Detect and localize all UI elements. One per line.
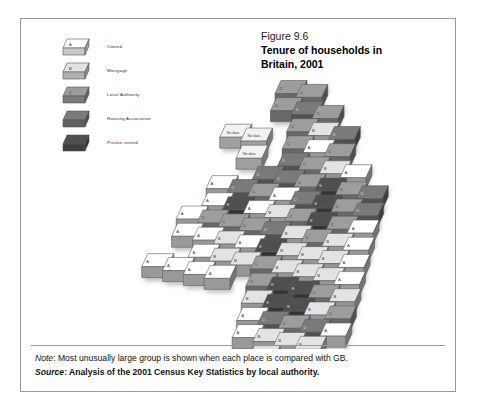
tile-label: A (206, 198, 209, 203)
legend-item-label: Housing Association (107, 116, 151, 121)
tile-label: E (310, 218, 313, 223)
tile-label: C (306, 235, 309, 240)
tile-label: No data (227, 131, 240, 135)
legend-item-local-authority: CLocal Authority (59, 85, 219, 109)
tile-label: C (340, 187, 343, 192)
tile-label: B (312, 128, 315, 133)
tile-label: C (291, 124, 294, 129)
tile-label: A (324, 328, 327, 333)
source-body: : Analysis of the 2001 Census Key Statis… (64, 367, 319, 377)
tile-label: A (211, 181, 214, 186)
tile-label: C (243, 223, 246, 228)
tile-label: E (227, 202, 230, 207)
tile-label: C (222, 219, 225, 224)
tile-label: B (317, 273, 320, 278)
tile-label: E (315, 201, 318, 206)
tile-label: A (307, 145, 310, 150)
legend-item-private-rented: Private rented (59, 133, 219, 157)
tile-front-face (204, 278, 230, 289)
tile-label: C (298, 180, 301, 185)
tile-label: E (259, 244, 262, 249)
legend-item-label: Private rented (107, 140, 138, 145)
notes-block: Note: Most unusually large group is show… (21, 345, 455, 391)
tile-label: E (319, 183, 322, 188)
tile-label: A (176, 229, 179, 234)
tile-label: E (287, 304, 290, 309)
tile-label: E (292, 286, 295, 291)
tile-label: A (347, 243, 350, 248)
tile-label: B (234, 258, 237, 263)
tile-label: B (268, 210, 271, 215)
tile-label: A (146, 259, 149, 264)
tile-label: C (300, 90, 303, 95)
tile-label: A (181, 211, 184, 216)
legend-item-label: Mortgage (107, 68, 128, 73)
tile-label: B (324, 166, 327, 171)
cartogram-tile[interactable]: A (204, 265, 236, 289)
tile-label: A (237, 330, 240, 335)
tile-label: C (317, 111, 320, 116)
tile-label: D (278, 176, 281, 181)
tile-label: C (252, 189, 255, 194)
legend-item-label: Local Authority (107, 92, 140, 97)
note-line: Note: Most unusually large group is show… (35, 353, 348, 363)
tile-label: C (283, 321, 286, 326)
figure-panel: CCCDCCBDNo dataNo dataCACNo dataDCBADDCE… (20, 18, 456, 392)
cartogram-tile[interactable]: No data (236, 145, 268, 169)
tile-label: A (209, 271, 212, 276)
tile-label: B (246, 296, 249, 301)
source-label: Source (35, 367, 64, 377)
tile-label: C (255, 261, 258, 266)
notes-divider (31, 345, 445, 346)
tile-label: E (271, 282, 274, 287)
legend-swatch-icon: A (59, 37, 93, 59)
tile-label: C (287, 141, 290, 146)
figure-number: Figure 9.6 (261, 29, 441, 43)
tile-label: D (231, 185, 234, 190)
source-line: Source: Analysis of the 2001 Census Key … (35, 367, 319, 377)
figure-title-line-2: Britain, 2001 (261, 58, 441, 72)
tile-label: B (333, 294, 336, 299)
tile-label: A (241, 313, 244, 318)
tile-label: B (280, 248, 283, 253)
tile-label: B (213, 254, 216, 259)
tile-label: C (335, 204, 338, 209)
tile-label: A (248, 206, 251, 211)
tile-label: C (250, 279, 253, 284)
svg-text:A: A (69, 42, 72, 47)
tile-label: D (262, 317, 265, 322)
note-label: Note (35, 353, 53, 363)
tile-label: C (329, 311, 332, 316)
tile-label: No data (248, 134, 261, 138)
legend-item-owned: AOwned (59, 37, 219, 61)
tile-label: B (322, 256, 325, 261)
tile-label: B (278, 338, 281, 343)
svg-text:C: C (69, 90, 72, 95)
tile-label: A (192, 250, 195, 255)
tile-label: B (301, 252, 304, 257)
tile-label: B (218, 236, 221, 241)
tile-label: D (296, 107, 299, 112)
svg-text:B: B (69, 66, 72, 71)
tile-label: A (273, 193, 276, 198)
tile-label: D (264, 227, 267, 232)
tile-label: A (345, 170, 348, 175)
tile-label: D (304, 325, 307, 330)
tile-label: E (267, 300, 270, 305)
tile-label: A (197, 233, 200, 238)
tile-label: C (303, 162, 306, 167)
tile-label: A (338, 277, 341, 282)
tile-label: No data (243, 152, 256, 156)
tile-label: B (285, 231, 288, 236)
legend-swatch-icon: C (59, 85, 93, 107)
legend-item-housing-association: Housing Association (59, 109, 219, 133)
tile-label: B (296, 269, 299, 274)
tile-label: C (280, 86, 283, 91)
tile-label: D (282, 158, 285, 163)
tile-label: D (257, 172, 260, 177)
legend-swatch-icon (59, 109, 93, 131)
tile-label: C (275, 103, 278, 108)
legend-swatch-icon (59, 133, 93, 155)
tile-label: D (361, 191, 364, 196)
tile-label: D (333, 132, 336, 137)
